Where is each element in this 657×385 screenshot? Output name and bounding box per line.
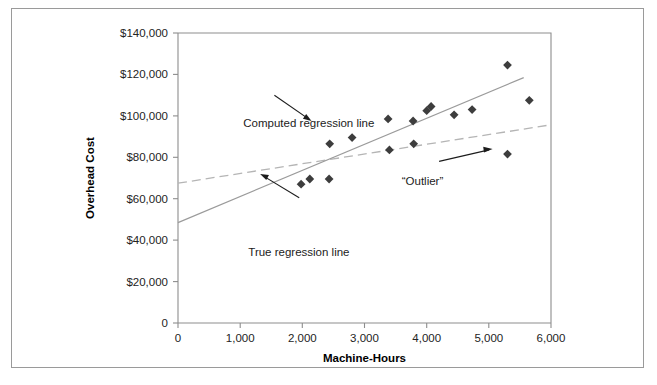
data-point	[525, 96, 534, 105]
data-point	[325, 139, 334, 148]
y-tick-label-40000: $40,000	[126, 234, 168, 246]
outlier-arrowhead	[483, 147, 492, 153]
x-tick-label-1000: 1,000	[226, 332, 255, 344]
true-regression-line	[178, 78, 524, 223]
x-tick-label-2000: 2,000	[288, 332, 317, 344]
y-axis-ticks: 0 $20,000 $40,000 $60,000 $80,000 $100,0…	[120, 27, 178, 329]
data-point	[305, 175, 314, 184]
computed-regression-annotation: Computed regression line	[243, 95, 374, 128]
y-tick-label-0: 0	[162, 317, 168, 329]
x-tick-label-0: 0	[175, 332, 181, 344]
y-tick-label-80000: $80,000	[126, 151, 168, 163]
outlier-annotation-text: “Outlier”	[402, 175, 444, 187]
y-tick-label-60000: $60,000	[126, 193, 168, 205]
data-point	[409, 139, 418, 148]
regression-lines	[178, 78, 549, 223]
data-point	[409, 117, 418, 126]
y-tick-label-120000: $120,000	[120, 68, 168, 80]
x-tick-label-6000: 6,000	[537, 332, 566, 344]
outlier-annotation: “Outlier”	[402, 147, 493, 187]
data-point	[384, 115, 393, 124]
figure-container: 0 $20,000 $40,000 $60,000 $80,000 $100,0…	[0, 0, 657, 385]
y-tick-label-100000: $100,000	[120, 110, 168, 122]
scatter-chart: 0 $20,000 $40,000 $60,000 $80,000 $100,0…	[0, 0, 657, 385]
computed-regression-leader	[274, 95, 308, 119]
data-point	[297, 180, 306, 189]
x-tick-label-3000: 3,000	[350, 332, 379, 344]
outlier-leader	[439, 150, 489, 162]
x-tick-label-4000: 4,000	[412, 332, 441, 344]
data-point	[385, 146, 394, 155]
data-point	[348, 133, 357, 142]
true-regression-annotation-text: True regression line	[248, 246, 349, 258]
data-point-high	[503, 61, 512, 70]
x-tick-label-5000: 5,000	[474, 332, 503, 344]
computed-regression-line	[178, 125, 549, 183]
plot-frame	[178, 33, 551, 323]
y-axis-title: Overhead Cost	[84, 137, 96, 219]
data-point	[468, 105, 477, 114]
data-point	[325, 175, 334, 184]
y-tick-label-140000: $140,000	[120, 27, 168, 39]
x-axis-ticks: 0 1,000 2,000 3,000 4,000 5,000 6,000	[175, 323, 566, 344]
x-axis-title: Machine-Hours	[323, 352, 406, 364]
data-point-outlier	[503, 150, 512, 159]
data-point	[450, 110, 459, 119]
y-tick-label-20000: $20,000	[126, 276, 168, 288]
